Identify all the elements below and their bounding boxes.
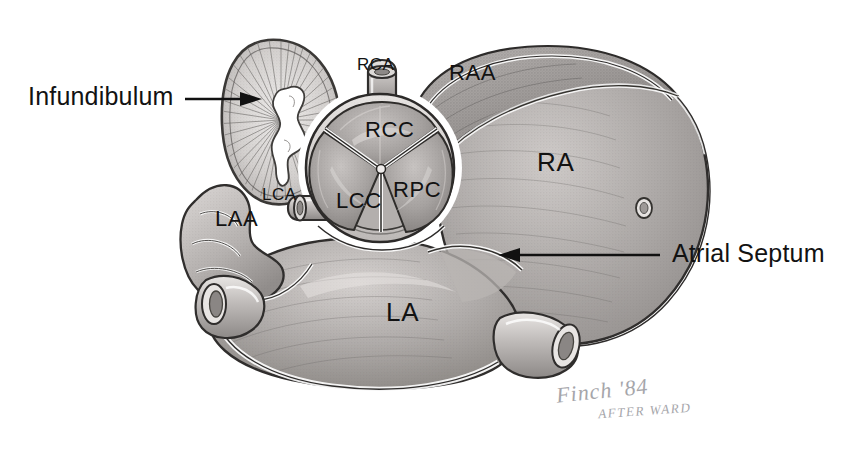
illustration-canvas: Infundibulum Atrial Septum RCA RAA RCC R… — [0, 0, 864, 449]
anatomy-label-lca: LCA — [262, 186, 297, 203]
anatomy-label-la: LA — [386, 299, 419, 325]
anatomy-label-laa: LAA — [215, 208, 258, 230]
anatomy-label-raa: RAA — [449, 62, 496, 84]
anatomy-label-ra: RA — [537, 149, 575, 175]
anatomy-label-rpc: RPC — [393, 179, 441, 201]
callout-label-infundibulum: Infundibulum — [28, 84, 174, 109]
anatomy-label-lcc: LCC — [336, 190, 382, 212]
callout-label-atrial-septum: Atrial Septum — [672, 241, 825, 266]
anatomy-label-rcc: RCC — [365, 119, 414, 141]
pulmonary-vein-stump-left — [196, 276, 265, 338]
anatomy-label-rca: RCA — [357, 56, 394, 73]
anatomy-drawing — [0, 0, 864, 449]
